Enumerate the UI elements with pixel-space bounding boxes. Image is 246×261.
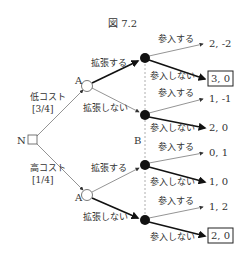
low-cost-label: 低コスト [30,91,66,102]
payoff-1: 2, -2 [209,38,231,49]
payoff-4: 2, 0 [209,122,228,133]
high-cost-label: 高コスト [30,162,66,173]
b3-not-enter-label: 参入しない [150,176,195,187]
b4-not-enter-label: 参入しない [150,231,195,242]
upper-expand-label: 拡張する [91,57,127,68]
player-b-node-3 [140,160,150,170]
payoff-6: 1, 0 [209,176,228,187]
b4-enter-branch [149,207,203,218]
b1-not-enter-label: 参入しない [150,70,195,81]
player-b-node-4 [140,215,150,225]
payoff-3: 1, -1 [209,93,231,104]
b4-enter-label: 参入する [158,195,194,206]
figure-title: 図 7.2 [108,18,137,29]
low-cost-prob: [3/4] [32,104,54,114]
player-b-node-1 [140,53,150,63]
player-a-label-upper: A [74,75,83,86]
payoff-8: 2, 0 [211,230,230,241]
b2-enter-label: 参入する [158,87,194,98]
payoff-7: 1, 2 [209,201,228,212]
b2-enter-branch [149,99,203,113]
b1-enter-branch [149,44,203,56]
b3-enter-branch [149,153,203,163]
upper-not-expand-label: 拡張しない [83,102,128,113]
player-a-node-upper [82,81,93,92]
player-a-node-lower [82,190,93,201]
high-cost-prob: [1/4] [32,175,54,185]
game-tree-diagram: 図 7.2 N A A B 低コスト [3/4] 高コスト [1/4] 拡張する… [0,0,246,261]
b2-not-enter-label: 参入しない [150,122,195,133]
b3-enter-label: 参入する [158,141,194,152]
payoff-5: 0, 1 [209,147,228,158]
nature-node [28,135,37,144]
player-b-label: B [134,135,141,146]
lower-not-expand-label: 拡張しない [83,211,128,222]
b1-enter-label: 参入する [158,33,194,44]
player-a-label-lower: A [74,192,83,203]
player-b-node-2 [140,110,150,120]
payoff-2: 3, 0 [211,73,230,84]
lower-expand-label: 拡張する [91,162,127,173]
nature-label: N [17,135,26,146]
